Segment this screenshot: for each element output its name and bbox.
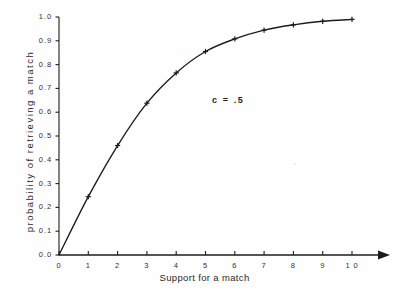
y-axis-title: probability of retrieving a match: [24, 37, 35, 247]
x-tick-label: 2: [106, 262, 130, 270]
x-tick-label: 1 0: [340, 262, 364, 270]
x-tick-label: 3: [135, 262, 159, 270]
data-point-marker: [232, 36, 237, 41]
data-point-marker: [291, 22, 296, 27]
chart-plot-area: [0, 0, 409, 293]
x-tick-label: 1: [76, 262, 100, 270]
chart-figure: 0.00.10.20.30.40.50.60.70.80.91.0 012345…: [0, 0, 409, 293]
curve-annotation-label: c = .5: [212, 95, 244, 105]
x-tick-label: 8: [281, 262, 305, 270]
data-point-marker: [86, 194, 91, 199]
x-tick-label: 7: [252, 262, 276, 270]
x-tick-label: 4: [164, 262, 188, 270]
x-axis-arrow-icon: [378, 251, 390, 260]
x-tick-label: 6: [223, 262, 247, 270]
x-tick-label: 5: [194, 262, 218, 270]
data-point-marker: [349, 17, 354, 22]
data-curve-series-1: [59, 19, 352, 255]
y-tick-label: 1.0: [22, 13, 52, 21]
x-axis-title: Support for a match: [0, 272, 409, 283]
data-point-marker: [320, 19, 325, 24]
data-point-marker: [262, 27, 267, 32]
x-tick-label: 0: [47, 262, 71, 270]
y-tick-label: 0.0: [22, 251, 52, 259]
x-tick-label: 9: [311, 262, 335, 270]
